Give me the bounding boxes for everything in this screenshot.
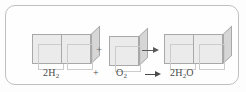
cube-front-face xyxy=(164,34,194,64)
cube-front-face xyxy=(109,36,139,66)
plus-operator-picture: + xyxy=(96,44,102,55)
cube-front-face xyxy=(61,34,91,64)
right-arrow-icon xyxy=(145,71,165,78)
cube-icon xyxy=(32,26,62,56)
water-label: 2H2O xyxy=(170,67,194,80)
arrow-head xyxy=(155,71,161,77)
oxygen-label: O2 xyxy=(116,67,127,80)
cube-front-face xyxy=(32,34,62,64)
water-label-suffix: O xyxy=(186,67,193,78)
oxygen-label-subscript: 2 xyxy=(123,72,127,80)
chemical-equation-figure: + xyxy=(0,0,246,92)
plus-operator-label: + xyxy=(93,67,99,78)
cube-icon xyxy=(109,28,139,58)
hydrogen-label: 2H2 xyxy=(43,67,59,80)
figure-frame: + xyxy=(5,5,239,85)
arrow-head xyxy=(153,47,159,53)
cube-icon xyxy=(164,26,194,56)
hydrogen-label-subscript: 2 xyxy=(56,72,60,80)
cube-icon xyxy=(61,26,91,56)
water-label-prefix: 2H xyxy=(170,67,183,78)
cube-front-face xyxy=(193,34,223,64)
equation-label-row: 2H2 + O2 2H2O xyxy=(11,66,245,84)
right-arrow-icon xyxy=(142,47,160,54)
hydrogen-label-text: 2H xyxy=(43,67,56,78)
cube-icon xyxy=(193,26,223,56)
